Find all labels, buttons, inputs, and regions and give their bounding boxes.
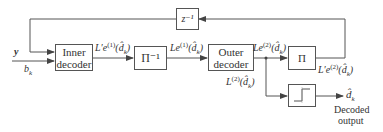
outer-decoder-label-1: Outer xyxy=(218,46,243,58)
deinterleaver-output-label: Le(1)(d̂k) xyxy=(170,41,203,56)
delay-block: z⁻¹ xyxy=(176,8,199,30)
decoded-caption-2: output xyxy=(338,115,364,126)
input-b-label: bk xyxy=(24,63,32,77)
deinterleaver-block: Π⁻¹ xyxy=(134,46,167,70)
outer-output-label: Le(2)(d̂k) xyxy=(253,41,286,56)
llr-label: L(2)(d̂k) xyxy=(226,75,255,90)
interleaver-block: Π xyxy=(288,46,316,70)
decoded-symbol-label: d̂k xyxy=(346,88,355,103)
outer-decoder-block: Outer decoder xyxy=(208,44,254,71)
inner-decoder-label-2: decoder xyxy=(57,58,92,70)
input-y-label: y xyxy=(14,46,18,57)
interleaver-output-label: L′e(2)(d̂k) xyxy=(318,63,353,78)
inner-decoder-label-1: Inner xyxy=(62,46,85,58)
inner-output-label: L′e(1)(d̂k) xyxy=(95,41,130,56)
interleaver-label: Π xyxy=(298,52,306,64)
delay-label: z⁻¹ xyxy=(181,13,193,25)
hard-decision-block xyxy=(288,84,316,107)
inner-decoder-block: Inner decoder xyxy=(55,44,93,71)
deinterleaver-label: Π⁻¹ xyxy=(141,52,160,64)
decoded-caption-1: Decoded xyxy=(334,104,370,115)
outer-decoder-label-2: decoder xyxy=(214,58,249,70)
